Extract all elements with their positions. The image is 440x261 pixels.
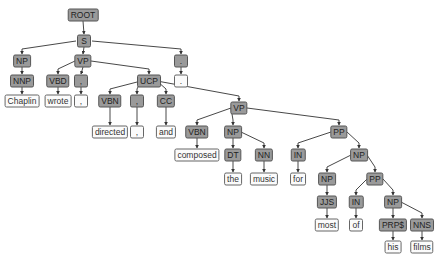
tree-edges — [0, 0, 440, 261]
tag-node-prps: PRP$ — [379, 219, 407, 232]
tag-node-punct_s: . — [174, 55, 188, 68]
tag-node-root: ROOT — [68, 9, 99, 22]
edge-pp1-in1 — [298, 132, 331, 148]
tag-node-np4: NP — [318, 173, 336, 186]
tag-node-pp2: PP — [366, 173, 383, 186]
tag-node-comma2: , — [130, 95, 144, 108]
edge-vp2-vbn2 — [197, 108, 231, 125]
word-node-dot_w: . — [174, 75, 188, 88]
edge-np3-np4 — [327, 155, 351, 172]
edge-root-s — [83, 21, 84, 34]
word-node-w_films: films — [410, 241, 433, 254]
word-node-w_his: his — [385, 241, 402, 254]
tag-node-cc: CC — [157, 95, 175, 108]
word-node-w_composed: composed — [174, 149, 219, 162]
tag-node-vbn1: VBN — [98, 95, 121, 108]
word-node-w_of: of — [349, 219, 363, 232]
tag-node-nnp: NNP — [10, 75, 34, 88]
tag-node-vp1: VP — [74, 55, 91, 68]
tag-node-nns: NNS — [410, 219, 434, 232]
edge-np2-nn — [241, 132, 264, 148]
word-node-w_wrote: wrote — [45, 95, 72, 108]
edge-s-np1 — [22, 41, 76, 54]
tag-node-comma1: , — [74, 75, 88, 88]
tag-node-jjs: JJS — [317, 196, 337, 209]
edge-vp1-vbd — [58, 61, 75, 74]
edge-pp2-np5 — [383, 179, 393, 195]
edge-vp1-ucp — [91, 61, 149, 74]
edge-np5-nns — [401, 202, 422, 218]
word-node-w_comma1: , — [74, 95, 88, 108]
tag-node-dt: DT — [224, 149, 241, 162]
tag-node-np3: NP — [350, 149, 368, 162]
tag-node-vp2: VP — [230, 102, 247, 115]
word-node-w_chaplin: Chaplin — [5, 95, 40, 108]
word-node-w_music: music — [250, 173, 278, 186]
tag-node-pp1: PP — [330, 126, 347, 139]
edge-pp1-np3 — [347, 132, 359, 148]
edge-vp2-pp1 — [247, 108, 339, 125]
tag-node-np2: NP — [224, 126, 242, 139]
word-node-w_for: for — [290, 173, 306, 186]
word-node-w_most: most — [315, 219, 339, 232]
word-node-w_directed: directed — [92, 126, 128, 139]
tag-node-vbd: VBD — [46, 75, 69, 88]
edge-s-punct_s — [92, 41, 181, 54]
tag-node-s: S — [77, 35, 91, 48]
tag-node-np1: NP — [13, 55, 31, 68]
edge-s-vp1 — [83, 47, 84, 54]
edge-vp1-comma1 — [81, 67, 83, 74]
edge-np3-pp2 — [367, 155, 375, 172]
tag-node-ucp: UCP — [137, 75, 161, 88]
tag-node-nn: NN — [255, 149, 273, 162]
tag-node-np5: NP — [384, 196, 402, 209]
word-node-w_and: and — [156, 126, 176, 139]
word-node-w_comma2: , — [130, 126, 144, 139]
word-node-w_the: the — [224, 173, 242, 186]
tag-node-in1: IN — [291, 149, 306, 162]
tag-node-in2: IN — [349, 196, 364, 209]
tag-node-vbn2: VBN — [185, 126, 208, 139]
